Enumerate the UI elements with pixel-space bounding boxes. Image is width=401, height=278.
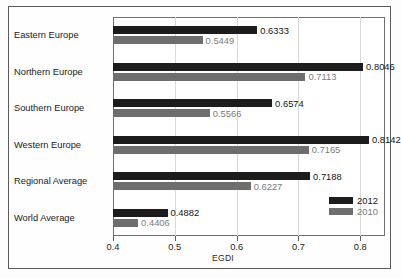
bar-2010-western-europe — [113, 146, 309, 154]
x-tick-label: 0.4 — [107, 242, 120, 252]
legend-swatch — [329, 208, 353, 215]
legend-label: 2012 — [357, 195, 378, 206]
bar-value-label: 0.4882 — [171, 208, 200, 217]
chart-legend: 20122010 — [329, 195, 383, 217]
bar-2012-eastern-europe — [113, 26, 257, 34]
bar-2012-regional-average — [113, 172, 310, 180]
chart-figure: Eastern EuropeNorthern EuropeSouthern Eu… — [0, 0, 401, 278]
bar-2012-western-europe — [113, 136, 369, 144]
bar-value-label: 0.5566 — [213, 109, 242, 118]
category-label: World Average — [14, 213, 112, 223]
x-axis-title: EGDI — [113, 253, 333, 263]
legend-label: 2010 — [357, 206, 378, 217]
bar-value-label: 0.7188 — [313, 172, 342, 181]
x-tick — [175, 236, 176, 241]
x-tick-label: 0.6 — [230, 242, 243, 252]
bar-value-label: 0.6333 — [260, 26, 289, 35]
bar-2012-southern-europe — [113, 99, 272, 107]
category-label: Northern Europe — [14, 67, 112, 77]
bar-2010-eastern-europe — [113, 36, 203, 44]
legend-swatch — [329, 197, 353, 204]
bar-value-label: 0.7113 — [308, 72, 336, 81]
bar-value-label: 0.7165 — [312, 145, 341, 154]
category-label: Western Europe — [14, 140, 112, 150]
bar-2010-regional-average — [113, 182, 251, 190]
x-tick — [237, 236, 238, 241]
bar-value-label: 0.8046 — [366, 62, 395, 71]
category-label: Southern Europe — [14, 103, 112, 113]
x-tick-label: 0.5 — [168, 242, 181, 252]
x-tick-label: 0.8 — [354, 242, 367, 252]
bar-value-label: 0.6227 — [254, 182, 283, 191]
bar-value-label: 0.6574 — [275, 99, 304, 108]
legend-item-2012: 2012 — [329, 195, 383, 206]
bar-2010-southern-europe — [113, 109, 210, 117]
x-tick — [298, 236, 299, 241]
legend-item-2010: 2010 — [329, 206, 383, 217]
bar-value-label: 0.4406 — [141, 218, 170, 227]
category-axis-labels: Eastern EuropeNorthern EuropeSouthern Eu… — [14, 17, 112, 236]
category-label: Eastern Europe — [14, 30, 112, 40]
x-tick-label: 0.7 — [292, 242, 305, 252]
bar-2012-world-average — [113, 209, 168, 217]
bar-value-label: 0.8142 — [372, 135, 401, 144]
bar-2012-northern-europe — [113, 63, 363, 71]
x-tick — [360, 236, 361, 241]
x-tick — [113, 236, 114, 241]
bar-value-label: 0.5449 — [206, 36, 235, 45]
bar-2010-world-average — [113, 219, 138, 227]
bar-2010-northern-europe — [113, 73, 305, 81]
category-label: Regional Average — [14, 176, 112, 186]
